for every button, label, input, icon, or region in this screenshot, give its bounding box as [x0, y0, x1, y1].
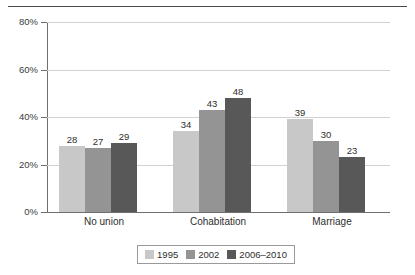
bar-marriage-1995[interactable] — [287, 119, 313, 212]
bar-value-marriage-2006-2010: 23 — [339, 145, 365, 156]
bar-marriage-2006-2010[interactable] — [339, 157, 365, 212]
legend-label-1995: 1995 — [157, 250, 178, 260]
y-axis-tick-label-0: 0% — [0, 207, 38, 217]
bar-value-no-union-1995: 28 — [59, 134, 85, 145]
bar-value-cohabitation-2002: 43 — [199, 98, 225, 109]
legend-item-2002[interactable]: 2002 — [186, 250, 219, 260]
y-axis-tick-label-80: 80% — [0, 17, 38, 27]
x-axis-category-label-marriage: Marriage — [267, 216, 397, 228]
bar-marriage-2002[interactable] — [313, 141, 339, 212]
plot-area: 28 27 29 34 43 48 39 30 23 — [47, 22, 390, 212]
x-axis-category-label-cohabitation: Cohabitation — [153, 216, 283, 228]
bar-no-union-2006-2010[interactable] — [111, 143, 137, 212]
gridline-60 — [47, 70, 390, 71]
y-axis-tick-text: 60% — [2, 65, 38, 75]
chart-legend: 1995 2002 2006–2010 — [137, 245, 295, 264]
y-axis-tick-label-40: 40% — [0, 112, 38, 122]
bar-cohabitation-2002[interactable] — [199, 110, 225, 212]
bar-no-union-2002[interactable] — [85, 148, 111, 212]
y-axis-tick-text: 0% — [2, 207, 38, 217]
bar-value-no-union-2002: 27 — [85, 136, 111, 147]
y-axis-tick-text: 20% — [2, 160, 38, 170]
bar-cohabitation-1995[interactable] — [173, 131, 199, 212]
grouped-bar-chart: 80% 60% 40% 20% 0% 28 27 — [0, 0, 415, 275]
legend-item-1995[interactable]: 1995 — [145, 250, 178, 260]
bar-no-union-1995[interactable] — [59, 146, 85, 213]
gridline-80 — [47, 22, 390, 23]
bar-value-marriage-2002: 30 — [313, 129, 339, 140]
y-axis-tick-label-20: 20% — [0, 160, 38, 170]
x-axis-line — [47, 212, 390, 213]
x-axis-category-label-no-union: No union — [39, 216, 169, 228]
legend-swatch-icon-2002 — [186, 250, 195, 259]
y-axis-tick-text: 80% — [2, 17, 38, 27]
y-axis-tick-text: 40% — [2, 112, 38, 122]
legend-swatch-icon-2006-2010 — [227, 250, 236, 259]
bar-value-cohabitation-2006-2010: 48 — [225, 86, 251, 97]
legend-swatch-icon-1995 — [145, 250, 154, 259]
bar-value-no-union-2006-2010: 29 — [111, 131, 137, 142]
bar-cohabitation-2006-2010[interactable] — [225, 98, 251, 212]
legend-label-2002: 2002 — [198, 250, 219, 260]
y-axis-tick-label-60: 60% — [0, 65, 38, 75]
legend-item-2006-2010[interactable]: 2006–2010 — [227, 250, 287, 260]
bar-value-cohabitation-1995: 34 — [173, 119, 199, 130]
legend-label-2006-2010: 2006–2010 — [239, 250, 287, 260]
bar-value-marriage-1995: 39 — [287, 107, 313, 118]
